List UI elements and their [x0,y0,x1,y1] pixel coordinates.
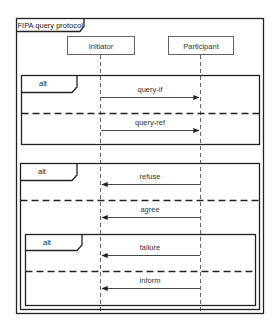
message-query-ref-label: query-ref [135,118,166,127]
alt-fragment-nested-operator: alt [43,238,52,247]
message-failure-label: failure [140,243,160,252]
alt-fragment-1: alt query-if query-ref [22,76,260,145]
message-query-ref[interactable]: query-ref [101,118,199,131]
message-query-if[interactable]: query-if [101,85,199,98]
message-refuse-label: refuse [140,172,161,181]
alt-fragment-2-operator: alt [38,167,47,176]
message-failure[interactable]: failure [102,243,200,256]
outer-frame: FIPA query protocol [17,19,264,314]
message-query-if-label: query-if [137,85,163,94]
alt-fragment-nested: alt failure inform [26,235,256,306]
alt-fragment-2: alt refuse agree alt failure inform [21,164,260,310]
message-agree-label: agree [140,205,159,214]
sequence-diagram: FIPA query protocol Initiator Participan… [0,0,278,328]
message-refuse[interactable]: refuse [102,172,200,185]
lifeline-participant-label: Participant [183,42,219,51]
message-agree[interactable]: agree [102,205,200,218]
lifeline-initiator-label: Initiator [89,42,114,51]
message-inform[interactable]: inform [102,276,200,289]
alt-fragment-1-operator: alt [39,79,48,88]
frame-title: FIPA query protocol [18,21,84,30]
message-inform-label: inform [140,276,161,285]
